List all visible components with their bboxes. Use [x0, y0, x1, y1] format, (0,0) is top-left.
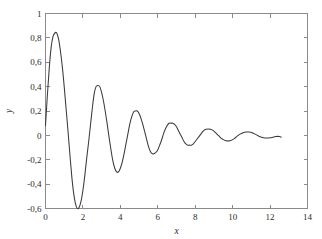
- x-tick-label: 0: [43, 212, 48, 222]
- x-axis-title: x: [173, 226, 179, 236]
- y-tick-label: 1: [37, 9, 42, 19]
- y-tick-label: -0,4: [27, 179, 42, 189]
- y-tick-label: 0,2: [30, 106, 41, 116]
- y-axis-title: y: [4, 108, 14, 114]
- y-tick-label: 0,6: [30, 57, 42, 67]
- y-tick-label: 0,8: [30, 33, 42, 43]
- x-tick-label: 2: [81, 212, 86, 222]
- x-tick-label: 14: [303, 212, 313, 222]
- y-tick-label: 0,4: [30, 82, 42, 92]
- x-tick-label: 10: [228, 212, 238, 222]
- figure-background: [0, 0, 322, 239]
- x-tick-label: 12: [266, 212, 275, 222]
- chart-figure: 02468101214 -0,6-0,4-0,200,20,40,60,81 x…: [0, 0, 322, 239]
- x-tick-label: 6: [156, 212, 161, 222]
- y-tick-label: 0: [37, 131, 42, 141]
- y-tick-label: -0,2: [27, 155, 41, 165]
- x-tick-label: 8: [193, 212, 198, 222]
- damped-oscillation-plot: 02468101214 -0,6-0,4-0,200,20,40,60,81 x…: [0, 0, 322, 239]
- y-tick-label: -0,6: [27, 204, 42, 214]
- x-tick-label: 4: [118, 212, 123, 222]
